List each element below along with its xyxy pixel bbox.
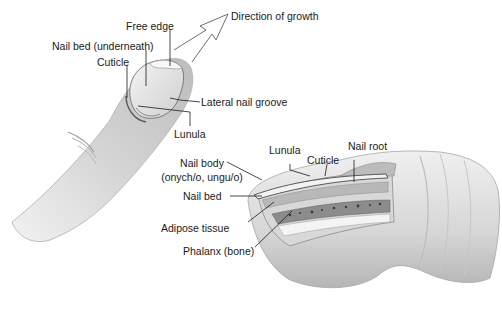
finger-cross-section xyxy=(248,151,500,288)
label-nail-bed: Nail bed xyxy=(183,190,222,202)
label-lunula-section: Lunula xyxy=(269,144,301,156)
label-lunula-top: Lunula xyxy=(174,128,206,140)
label-cuticle-section: Cuticle xyxy=(307,154,339,166)
label-adipose-tissue: Adipose tissue xyxy=(161,222,229,234)
label-nail-bed-underneath: Nail bed (underneath) xyxy=(52,40,154,52)
label-nail-root: Nail root xyxy=(348,140,387,152)
label-lateral-nail-groove: Lateral nail groove xyxy=(201,96,287,108)
label-direction-of-growth: Direction of growth xyxy=(231,10,319,22)
finger-top-view xyxy=(12,59,193,242)
label-free-edge: Free edge xyxy=(126,20,174,32)
label-nail-body: Nail body xyxy=(157,157,247,169)
label-cuticle-top: Cuticle xyxy=(97,56,129,68)
direction-of-growth-arrow xyxy=(174,14,228,62)
nail-anatomy-diagram: Direction of growth Free edge Nail bed (… xyxy=(0,0,502,310)
label-nail-body-combining-forms: (onych/o, ungu/o) xyxy=(152,171,252,183)
label-phalanx-bone: Phalanx (bone) xyxy=(183,245,254,257)
